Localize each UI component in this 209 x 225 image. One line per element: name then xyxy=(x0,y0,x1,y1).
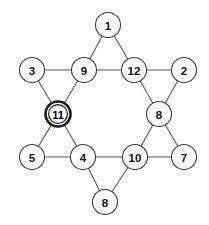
graph-node-8[interactable]: 8 xyxy=(147,102,172,127)
node-label: 8 xyxy=(156,109,163,121)
graph-node-11[interactable]: 11 xyxy=(46,102,71,127)
node-label: 7 xyxy=(181,152,187,164)
graph-edge xyxy=(90,36,102,59)
graph-node-9[interactable]: 9 xyxy=(72,58,97,83)
graph-edge xyxy=(64,125,76,146)
node-label: 8 xyxy=(102,197,109,209)
node-label: 3 xyxy=(29,65,35,77)
graph-edge xyxy=(64,81,77,103)
graph-edge xyxy=(39,125,52,146)
node-label: 4 xyxy=(80,152,87,164)
node-label: 2 xyxy=(181,65,187,77)
graph-node-10[interactable]: 10 xyxy=(123,145,148,170)
graph-node-8[interactable]: 8 xyxy=(93,190,118,215)
graph-edge xyxy=(112,168,128,192)
graph-node-1[interactable]: 1 xyxy=(96,13,121,38)
graph-node-3[interactable]: 3 xyxy=(20,58,45,83)
hexagram-canvas: 139122118541078 xyxy=(0,0,209,225)
graph-node-2[interactable]: 2 xyxy=(172,58,197,83)
graph-edge xyxy=(140,81,152,103)
hexagram-diagram: 139122118541078 xyxy=(0,0,209,225)
graph-edge xyxy=(165,81,177,103)
graph-edge xyxy=(89,168,100,190)
node-label: 9 xyxy=(81,65,87,77)
graph-edge xyxy=(114,36,127,59)
node-label: 5 xyxy=(29,152,36,164)
graph-edge xyxy=(165,125,177,146)
node-label: 12 xyxy=(128,65,141,77)
graph-node-7[interactable]: 7 xyxy=(172,145,197,170)
nodes-layer: 139122118541078 xyxy=(20,13,197,215)
graph-node-5[interactable]: 5 xyxy=(20,145,45,170)
graph-node-4[interactable]: 4 xyxy=(71,145,96,170)
node-label: 11 xyxy=(52,109,64,121)
graph-edge xyxy=(141,125,153,146)
graph-edge xyxy=(38,81,51,103)
graph-node-12[interactable]: 12 xyxy=(122,58,147,83)
node-label: 10 xyxy=(129,152,142,164)
node-label: 1 xyxy=(105,20,112,32)
